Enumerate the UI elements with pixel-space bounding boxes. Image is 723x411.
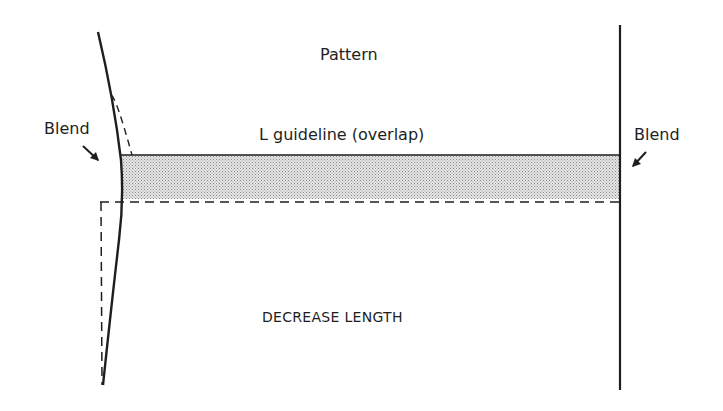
original-left-edge-dashed [101,202,102,385]
blend-right-label: Blend [634,127,680,143]
pattern-diagram: Pattern L guideline (overlap) Blend Blen… [0,0,723,411]
decrease-length-label: DECREASE LENGTH [262,310,403,324]
blend-dashed-top [111,95,132,155]
blend-arrow-right-icon [632,152,646,167]
pattern-title: Pattern [320,47,378,63]
blend-left-label: Blend [44,121,90,137]
guideline-label: L guideline (overlap) [259,127,424,143]
blend-arrow-left-icon [83,146,99,161]
overlap-band [121,155,620,199]
